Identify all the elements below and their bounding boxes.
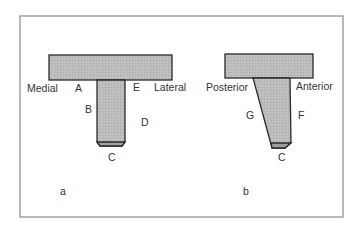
panel-a-tip [97,142,125,146]
panel-a-stem [97,80,125,146]
diagram-figure: Medial A E Lateral B D C a Posterior Ant… [0,0,359,227]
panel-b-top-bar [225,54,313,78]
panel-a-top-bar [49,55,172,80]
label-g: G [246,109,254,121]
label-posterior: Posterior [206,81,249,93]
label-lateral: Lateral [154,81,186,93]
label-d: D [141,116,149,128]
caption-b: b [243,185,249,197]
caption-a: a [60,185,66,197]
label-medial: Medial [27,82,58,94]
label-b: B [85,103,92,115]
label-f: F [298,109,304,121]
label-a: A [75,82,82,94]
figure-frame [20,16,343,217]
label-c-a: C [108,151,116,163]
label-e: E [133,81,140,93]
label-anterior: Anterior [296,80,333,92]
label-c-b: C [278,151,286,163]
